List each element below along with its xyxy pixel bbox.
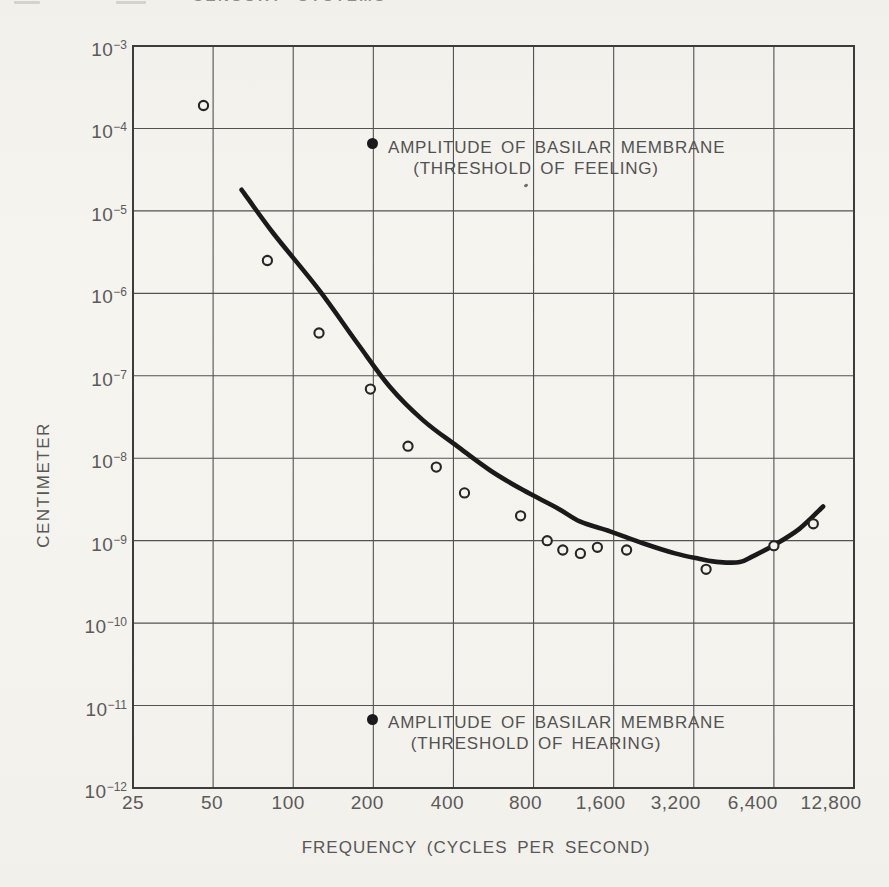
threshold-of-hearing-data-point: [558, 545, 567, 554]
feeling-legend-dot: [367, 138, 378, 149]
x-tick-label: 800: [509, 791, 542, 815]
threshold-of-hearing-data-point: [543, 536, 552, 545]
feeling-legend-line1: AMPLITUDE OF BASILAR MEMBRANE: [388, 137, 712, 158]
threshold-of-hearing-data-point: [622, 545, 631, 554]
threshold-of-hearing-data-point: [263, 256, 272, 265]
feeling-legend-line2: (THRESHOLD OF FEELING): [374, 158, 698, 179]
y-tick-label: 10−3: [57, 33, 127, 57]
threshold-of-hearing-data-point: [199, 101, 208, 110]
y-tick-label: 10−9: [57, 528, 127, 552]
y-axis-title: CENTIMETER: [34, 422, 54, 548]
threshold-of-hearing-data-point: [769, 541, 778, 550]
scanned-book-page: SENSORY SYSTEMS 10−310−410−510−610−710−8…: [0, 0, 889, 887]
x-tick-label: 200: [351, 791, 384, 815]
legend-threshold-of-feeling: AMPLITUDE OF BASILAR MEMBRANE (THRESHOLD…: [388, 137, 712, 179]
x-tick-label: 25: [122, 791, 144, 815]
threshold-of-hearing-data-point: [576, 549, 585, 558]
y-tick-label: 10−4: [57, 115, 127, 139]
y-tick-label: 10−7: [57, 363, 127, 387]
legend-threshold-of-hearing: AMPLITUDE OF BASILAR MEMBRANE (THRESHOLD…: [388, 712, 712, 754]
hearing-legend-line2: (THRESHOLD OF HEARING): [374, 733, 698, 754]
x-tick-label: 3,200: [651, 791, 701, 815]
y-tick-label: 10−11: [57, 693, 127, 717]
threshold-of-hearing-data-point: [403, 442, 412, 451]
threshold-of-hearing-data-point: [809, 519, 818, 528]
x-tick-label: 50: [201, 791, 223, 815]
y-tick-label: 10−10: [57, 610, 127, 634]
y-tick-label: 10−12: [57, 775, 127, 799]
hearing-legend-dot: [367, 714, 378, 725]
hearing-legend-line1: AMPLITUDE OF BASILAR MEMBRANE: [388, 712, 712, 733]
x-tick-label: 400: [431, 791, 464, 815]
x-axis-title: FREQUENCY (CYCLES PER SECOND): [302, 838, 651, 858]
x-tick-label: 12,800: [800, 791, 861, 815]
threshold-of-hearing-data-point: [366, 385, 375, 394]
y-tick-label: 10−5: [57, 198, 127, 222]
threshold-of-hearing-data-point: [516, 511, 525, 520]
threshold-of-hearing-data-point: [314, 328, 323, 337]
threshold-of-hearing-data-point: [702, 565, 711, 574]
x-tick-label: 1,600: [576, 791, 626, 815]
y-tick-label: 10−8: [57, 445, 127, 469]
threshold-of-hearing-data-point: [593, 543, 602, 552]
threshold-of-hearing-data-point: [432, 463, 441, 472]
threshold-of-hearing-data-point: [460, 488, 469, 497]
x-tick-label: 100: [272, 791, 305, 815]
x-tick-label: 6,400: [728, 791, 778, 815]
y-tick-label: 10−6: [57, 280, 127, 304]
